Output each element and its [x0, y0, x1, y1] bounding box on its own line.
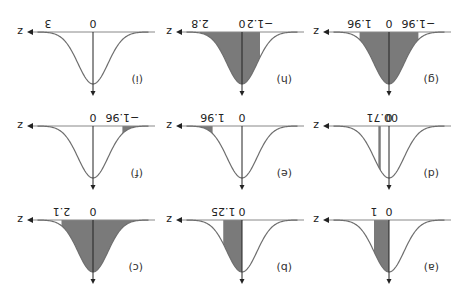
- tick-label: −1.96: [106, 111, 140, 124]
- tick-label: 0: [239, 111, 246, 124]
- panel-label: (g): [423, 73, 439, 86]
- y-axis-arrow-icon: [240, 185, 245, 190]
- tick-label: 2.1: [53, 205, 71, 218]
- axis-arrow-icon: [323, 217, 329, 223]
- tick-label: 0: [386, 17, 393, 30]
- axis-arrow-icon: [27, 217, 33, 223]
- tick-label: 0: [90, 17, 97, 30]
- tick-label: 2.8: [191, 17, 209, 30]
- y-axis-arrow-icon: [240, 279, 245, 284]
- axis-label-z: z: [17, 213, 23, 226]
- axis-label-z: z: [166, 119, 172, 132]
- panel-f: z0−1.96(f): [17, 111, 155, 190]
- y-axis-arrow-icon: [387, 279, 392, 284]
- axis-label-z: z: [166, 25, 172, 38]
- panel-label: (c): [128, 261, 143, 274]
- panel-label: (b): [276, 261, 292, 274]
- axis-arrow-icon: [323, 29, 329, 35]
- tick-label: 00.71: [367, 111, 399, 124]
- panel-label: (d): [423, 167, 439, 180]
- panel-d: z000.71(d): [313, 111, 451, 190]
- axis-label-z: z: [17, 119, 23, 132]
- figure-canvas: z01(a)z01.25(b)z02.1(c)z000.71(d)z01.96(…: [0, 0, 472, 288]
- panel-b: z01.25(b): [166, 205, 304, 284]
- y-axis-arrow-icon: [387, 91, 392, 96]
- tick-label: 3: [45, 17, 52, 30]
- y-axis-arrow-icon: [91, 185, 96, 190]
- tick-label: 1: [371, 205, 378, 218]
- tick-label: 0: [90, 111, 97, 124]
- axis-label-z: z: [313, 213, 319, 226]
- tick-label: 1.96: [200, 111, 225, 124]
- panel-a: z01(a): [313, 205, 451, 284]
- tick-label: 1.25: [211, 205, 236, 218]
- tick-label: 0: [90, 205, 97, 218]
- axis-arrow-icon: [176, 123, 182, 129]
- panel-label: (h): [276, 73, 292, 86]
- axis-arrow-icon: [176, 217, 182, 223]
- tick-label: 0: [386, 205, 393, 218]
- panel-c: z02.1(c): [17, 205, 155, 284]
- axis-label-z: z: [17, 25, 23, 38]
- tick-label: 0: [239, 17, 246, 30]
- panel-label: (a): [424, 261, 439, 274]
- axis-label-z: z: [166, 213, 172, 226]
- panel-label: (i): [131, 73, 143, 86]
- panel-label: (e): [277, 167, 292, 180]
- tick-label: −1.96: [402, 17, 436, 30]
- panel-e: z01.96(e): [166, 111, 304, 190]
- panel-label: (f): [131, 167, 143, 180]
- axis-arrow-icon: [27, 29, 33, 35]
- axis-label-z: z: [313, 25, 319, 38]
- shaded-area: [374, 220, 389, 272]
- y-axis-arrow-icon: [91, 91, 96, 96]
- y-axis-arrow-icon: [91, 279, 96, 284]
- panel-i: z03(i): [17, 17, 155, 96]
- axis-arrow-icon: [323, 123, 329, 129]
- panel-g: z−1.9601.96(g): [313, 17, 451, 96]
- shaded-area: [378, 126, 380, 171]
- tick-label: −1.2: [247, 17, 274, 30]
- axis-label-z: z: [313, 119, 319, 132]
- y-axis-arrow-icon: [387, 185, 392, 190]
- axis-arrow-icon: [176, 29, 182, 35]
- panel-h: z−1.202.8(h): [166, 17, 304, 96]
- shaded-area: [223, 220, 242, 272]
- tick-label: 1.96: [347, 17, 372, 30]
- normal-curves-figure: z01(a)z01.25(b)z02.1(c)z000.71(d)z01.96(…: [0, 0, 472, 288]
- tick-label: 0: [239, 205, 246, 218]
- axis-arrow-icon: [27, 123, 33, 129]
- y-axis-arrow-icon: [240, 91, 245, 96]
